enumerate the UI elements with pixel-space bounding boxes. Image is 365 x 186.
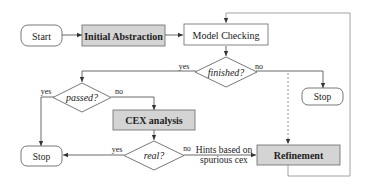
- node-passed-decision: passed?: [53, 83, 111, 112]
- node-initial-abstraction: Initial Abstraction: [82, 25, 165, 46]
- node-refinement: Refinement: [257, 145, 340, 165]
- refinement-label: Refinement: [274, 150, 324, 161]
- real-yes-label: yes: [112, 145, 123, 154]
- start-label: Start: [32, 31, 51, 42]
- node-finished-decision: finished?: [195, 57, 257, 87]
- finished-yes-label: yes: [179, 62, 190, 71]
- real-no-label: no: [183, 144, 191, 153]
- finished-no-label: no: [255, 62, 263, 71]
- hints-label-line2: spurious cex: [200, 155, 248, 165]
- passed-yes-label: yes: [41, 87, 52, 96]
- passed-no-label: no: [115, 87, 123, 96]
- node-start: Start: [21, 25, 62, 46]
- finished-label: finished?: [208, 67, 245, 78]
- passed-label: passed?: [65, 92, 98, 103]
- edge-passed-no-to-cex: [111, 97, 154, 110]
- node-cex-analysis: CEX analysis: [113, 110, 195, 130]
- stop-right-label: Stop: [314, 92, 332, 102]
- node-stop-left: Stop: [21, 146, 62, 166]
- edge-passed-yes-to-stop: [41, 97, 54, 146]
- node-model-checking: Model Checking: [184, 24, 268, 45]
- flowchart-canvas: Start Initial Abstraction Model Checking…: [0, 0, 365, 186]
- node-stop-right: Stop: [302, 88, 343, 105]
- edge-finished-yes-to-passed: [82, 71, 196, 82]
- stop-left-label: Stop: [33, 152, 51, 162]
- cex-analysis-label: CEX analysis: [125, 115, 183, 126]
- model-checking-label: Model Checking: [193, 30, 260, 41]
- initial-abstraction-label: Initial Abstraction: [84, 31, 163, 42]
- edge-finished-no-to-stop: [256, 71, 323, 88]
- real-label: real?: [144, 150, 165, 161]
- node-real-decision: real?: [124, 141, 184, 170]
- hints-label-line1: Hints based on: [196, 145, 253, 155]
